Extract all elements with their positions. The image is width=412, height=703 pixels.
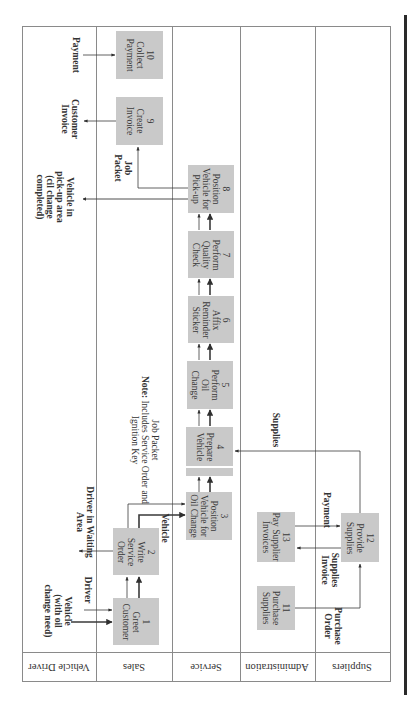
label-line: completed): [35, 171, 45, 222]
step-text: Change: [190, 369, 200, 400]
step-text: Affix: [211, 301, 221, 338]
label-payment-supplier: Payment: [322, 492, 332, 528]
label-line: Job: [123, 154, 133, 181]
step-number: 6: [221, 301, 231, 338]
step-text: Perform: [211, 239, 221, 270]
step-text: Perform: [210, 369, 220, 400]
label-line: Area: [75, 486, 85, 557]
label-line: Driver in Waiting: [85, 486, 95, 557]
note-prefix: Note:: [140, 376, 150, 398]
step-text: Pick-up: [191, 168, 201, 210]
label-line: Order: [323, 607, 333, 644]
label-line: Purchase: [333, 607, 343, 644]
label-line: Customer: [70, 99, 80, 139]
step-12-provide-supplies: 12ProvideSupplies: [341, 513, 379, 562]
label-line: Invoice: [320, 553, 330, 587]
label-line: pick-up area: [55, 171, 65, 222]
label-purchase-order: Purchase Order: [323, 607, 343, 644]
step-text: Invoices: [261, 513, 271, 562]
step-11-purchase-supplies: 11PurchaseSupplies: [257, 586, 295, 630]
step-9-create-invoice: 9CreateInvoice: [116, 97, 163, 145]
step-text: Reminder: [201, 301, 211, 338]
step-number: 2: [146, 537, 156, 566]
label-line: (cil change: [45, 171, 55, 222]
step-text: Collect: [135, 38, 145, 71]
step-text: Oil Change: [189, 494, 199, 538]
step-text: Vehicle for: [199, 494, 209, 538]
label-driver: Driver: [83, 577, 93, 604]
step-text: Vehicle: [195, 432, 205, 461]
step-text: Invoice: [125, 107, 135, 136]
step-number: 9: [145, 107, 155, 136]
step-5-perform-oil-change: 5PerformOilChange: [187, 361, 233, 409]
label-line: Packet: [113, 154, 123, 181]
step-text: Check: [191, 239, 201, 270]
note-title: Job Packet: [150, 376, 160, 504]
step-text: Supplies: [345, 521, 355, 554]
label-vehicle-pickup: Vehicle in pick-up area (cil change comp…: [35, 171, 75, 222]
step-text: Position: [209, 494, 219, 538]
step-number: 5: [220, 369, 230, 400]
label-supplies-invoice: Supplies Invoice: [320, 553, 340, 587]
step-4-strip: [186, 468, 233, 476]
arrow-write-to-position-note: [128, 504, 185, 528]
label-line: Supplies: [330, 553, 340, 587]
step-number: 1: [141, 603, 151, 640]
label-driver-waiting: Driver in Waiting Area: [75, 486, 95, 557]
step-text: Sticker: [191, 301, 201, 338]
step-text: Purchase: [271, 591, 281, 625]
note-body-2: Ignition Key: [130, 376, 140, 504]
step-text: Greet: [131, 603, 141, 640]
step-number: 3: [219, 494, 229, 538]
label-line: change need): [43, 584, 53, 637]
step-number: 4: [215, 432, 225, 461]
note-body: Includes Service Order and: [140, 400, 150, 504]
step-number: 7: [221, 239, 231, 270]
step-text: Provide: [355, 521, 365, 554]
step-text: Vehicle for: [201, 168, 211, 210]
step-text: Prepare: [205, 432, 215, 461]
label-line: (with oil: [53, 584, 63, 637]
step-number: 11: [281, 591, 291, 625]
step-text: Customer: [121, 603, 131, 640]
step-7-perform-quality-check: 7PerformQualityCheck: [188, 231, 234, 278]
note-job-packet: Job Packet Note: Includes Service Order …: [130, 376, 160, 504]
step-text: Quality: [201, 239, 211, 270]
step-text: Pay Supplier: [271, 513, 281, 562]
arrow-position-to-invoice: [138, 147, 188, 188]
label-vehicle: Vehicle: [160, 513, 170, 542]
step-text: Supplies: [261, 591, 271, 625]
step-text: Order: [116, 537, 126, 566]
step-text: Oil: [200, 369, 210, 400]
arrow-supplies-to-prepare: [235, 451, 360, 513]
step-number: 8: [221, 168, 231, 210]
swimlane-diagram: Vehicle Driver Sales Service Administrat…: [0, 0, 412, 703]
step-number: 13: [281, 513, 291, 562]
step-number: 12: [365, 521, 375, 554]
step-2-write-service-order: 2WriteServiceOrder: [113, 528, 159, 575]
label-job-packet: Job Packet: [113, 154, 133, 181]
label-line: Invoice: [60, 99, 70, 139]
step-13-pay-supplier-invoices: 13Pay SupplierInvoices: [257, 512, 295, 562]
step-text: Write: [136, 537, 146, 566]
step-1-greet-customer: 1GreetCustomer: [113, 598, 159, 645]
step-text: Payment: [125, 38, 135, 71]
step-3-position-vehicle-oil-change: 3PositionVehicle forOil Change: [186, 492, 232, 540]
step-number: 10: [145, 38, 155, 71]
label-line: Vehicle: [63, 584, 73, 637]
label-line: Vehicle in: [65, 171, 75, 222]
step-6-affix-reminder-sticker: 6AffixReminderSticker: [188, 296, 234, 343]
label-supplies: Supplies: [271, 413, 281, 447]
step-text: Position: [211, 168, 221, 210]
step-10-collect-payment: 10CollectPayment: [116, 31, 163, 79]
step-8-position-vehicle-pickup: 8PositionVehicle forPick-up: [188, 165, 234, 213]
label-vehicle-in: Vehicle (with oil change need): [43, 584, 73, 637]
label-customer-invoice: Customer Invoice: [60, 99, 80, 139]
label-payment-in: Payment: [71, 37, 81, 73]
step-4-prepare-vehicle: 4PrepareVehicle: [186, 427, 233, 466]
step-text: Create: [135, 107, 145, 136]
step-text: Service: [126, 537, 136, 566]
